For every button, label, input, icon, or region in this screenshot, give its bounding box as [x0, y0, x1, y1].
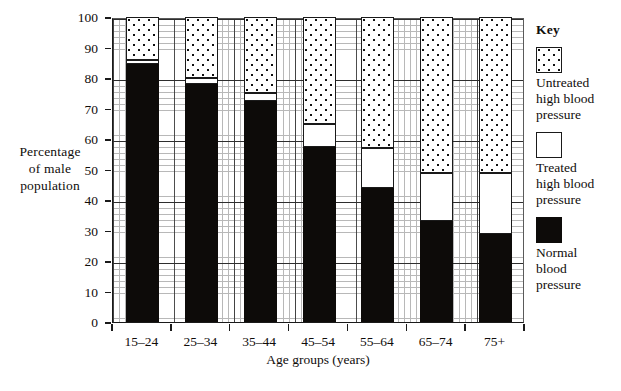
y-axis-tick-mark [105, 109, 111, 110]
y-axis-tick-label: 90 [68, 42, 98, 56]
bar-segment-treated [420, 173, 453, 222]
legend-label-untreated: Untreatedhigh bloodpressure [536, 75, 620, 123]
bar-segment-normal [479, 234, 512, 322]
stacked-bar [126, 17, 159, 322]
y-axis-tick-label: 40 [68, 194, 98, 208]
y-axis-tick-mark [105, 17, 111, 18]
y-axis-tick-label: 50 [68, 164, 98, 178]
x-axis-tick-mark [464, 324, 465, 331]
x-axis-tick-mark [288, 324, 289, 331]
legend-label-line: Untreated [536, 75, 620, 91]
x-axis-tick-mark [229, 324, 230, 331]
y-axis-tick-mark [105, 231, 111, 232]
legend-label-line: Normal [536, 245, 620, 261]
y-axis-tick-mark [105, 139, 111, 140]
stacked-bar [420, 17, 453, 322]
y-axis-tick-mark [105, 200, 111, 201]
y-axis-tick-label: 100 [68, 11, 98, 25]
y-axis-tick-label: 20 [68, 255, 98, 269]
x-axis-tick-mark [111, 324, 112, 331]
bar-segment-untreated [361, 17, 394, 148]
legend-swatch-treated [536, 132, 562, 158]
chart-root: Percentage of male population 0102030405… [0, 0, 621, 391]
legend-label-line: pressure [536, 277, 620, 293]
y-axis-tick-label: 60 [68, 133, 98, 147]
legend-title: Key [536, 22, 620, 38]
x-axis-tick-mark [406, 324, 407, 331]
bar-segment-untreated [126, 17, 159, 60]
y-axis-tick-mark [105, 78, 111, 79]
bar-segment-untreated [185, 17, 218, 78]
bar-segment-treated [303, 124, 336, 147]
bar-segment-normal [361, 188, 394, 322]
legend-label-line: high blood [536, 176, 620, 192]
legend-label-line: pressure [536, 192, 620, 208]
stacked-bar [244, 17, 277, 322]
y-axis-tick-mark [105, 292, 111, 293]
stacked-bar [361, 17, 394, 322]
bar-segment-untreated [303, 17, 336, 124]
x-axis-tick-mark [347, 324, 348, 331]
plot-area [112, 18, 524, 323]
y-axis-tick-label: 80 [68, 72, 98, 86]
stacked-bar [185, 17, 218, 322]
legend-label-treated: Treatedhigh bloodpressure [536, 160, 620, 208]
chart-legend: Key Untreatedhigh bloodpressureTreatedhi… [536, 22, 620, 293]
bar-segment-untreated [420, 17, 453, 173]
stacked-bar [479, 17, 512, 322]
x-axis-tick-mark [523, 324, 524, 331]
y-axis-tick-label: 30 [68, 225, 98, 239]
legend-items: Untreatedhigh bloodpressureTreatedhigh b… [536, 47, 620, 293]
x-axis-tick-label: 75+ [460, 335, 530, 349]
bar-segment-normal [420, 221, 453, 322]
legend-label-line: high blood [536, 91, 620, 107]
bar-segment-normal [126, 64, 159, 322]
legend-label-normal: Normalbloodpressure [536, 245, 620, 293]
legend-swatch-normal [536, 217, 562, 243]
bar-segment-normal [185, 84, 218, 322]
y-axis-tick-label: 10 [68, 286, 98, 300]
legend-label-line: pressure [536, 107, 620, 123]
y-axis-tick-label: 70 [68, 103, 98, 117]
legend-label-line: Treated [536, 160, 620, 176]
bar-segment-untreated [479, 17, 512, 173]
legend-swatch-untreated [536, 47, 562, 73]
y-axis-title-line-3: population [2, 177, 98, 194]
bar-segment-normal [244, 101, 277, 322]
bar-segment-treated [361, 148, 394, 188]
bar-segment-treated [244, 93, 277, 101]
y-axis-tick-mark [105, 170, 111, 171]
bar-segment-untreated [244, 17, 277, 93]
x-axis-tick-mark [170, 324, 171, 331]
y-axis-tick-mark [105, 261, 111, 262]
bar-segment-normal [303, 147, 336, 322]
y-axis-tick-mark [105, 322, 111, 323]
bar-segment-treated [479, 173, 512, 234]
stacked-bar [303, 17, 336, 322]
y-axis-tick-mark [105, 48, 111, 49]
y-axis-tick-label: 0 [68, 316, 98, 330]
x-axis-title: Age groups (years) [112, 352, 524, 368]
legend-label-line: blood [536, 261, 620, 277]
